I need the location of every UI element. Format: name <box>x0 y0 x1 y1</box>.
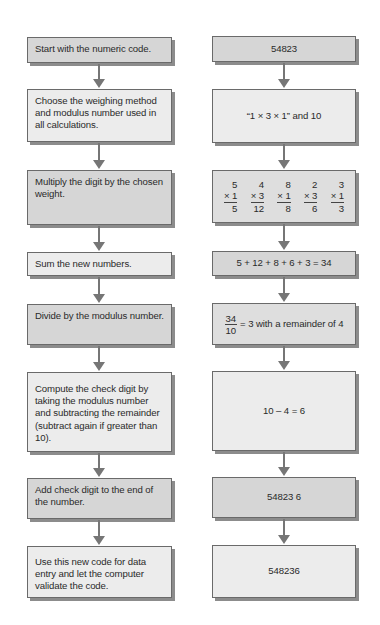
value-label: “1 × 3 × 1” and 10 <box>247 110 321 122</box>
mult-digit: 2 <box>312 179 317 190</box>
arrow-down-icon <box>278 277 290 302</box>
mult-result: 3 <box>339 203 344 214</box>
step-label: Multiply the digit by the chosen weight. <box>35 176 163 199</box>
mult-weight: × 1 <box>331 190 344 203</box>
fraction-denominator: 10 <box>226 325 236 336</box>
step-choose-method: Choose the weighing method and modulus n… <box>27 89 172 142</box>
arrow-down-icon <box>93 453 105 477</box>
value-final: 548236 <box>212 545 356 598</box>
step-sum: Sum the new numbers. <box>27 252 172 276</box>
value-method: “1 × 3 × 1” and 10 <box>212 89 356 143</box>
value-sum: 5 + 12 + 8 + 6 + 3 = 34 <box>212 251 356 276</box>
mult-digit: 5 <box>232 179 237 190</box>
step-label: Divide by the modulus number. <box>35 310 164 321</box>
mult-digit: 4 <box>259 179 264 190</box>
fraction: 34 10 <box>225 313 237 336</box>
arrow-down-icon <box>278 63 290 88</box>
mult-column: 5 × 1 5 <box>224 179 237 214</box>
value-label: 10 – 4 = 6 <box>263 405 305 417</box>
mult-result: 5 <box>232 203 237 214</box>
value-label: 54823 6 <box>267 491 301 503</box>
arrow-down-icon <box>93 143 105 169</box>
mult-weight: × 1 <box>277 190 290 203</box>
step-add-check-digit: Add check digit to the end of the number… <box>27 478 172 519</box>
mult-column: 2 × 3 6 <box>304 179 317 214</box>
mult-result: 8 <box>285 203 290 214</box>
value-appended: 54823 6 <box>212 477 356 518</box>
arrow-down-icon <box>93 277 105 303</box>
arrow-down-icon <box>93 346 105 371</box>
arrow-down-icon <box>93 64 105 88</box>
step-label: Use this new code for data entry and let… <box>35 556 146 591</box>
value-label: 54823 <box>271 43 297 55</box>
step-label: Start with the numeric code. <box>35 43 151 54</box>
mult-column: 4 × 3 12 <box>251 179 264 214</box>
division-result: = 3 with a remainder of 4 <box>240 318 343 330</box>
value-subtraction: 10 – 4 = 6 <box>212 371 356 451</box>
mult-weight: × 3 <box>304 190 317 203</box>
step-divide: Divide by the modulus number. <box>27 304 172 345</box>
value-division: 34 10 = 3 with a remainder of 4 <box>212 303 356 345</box>
value-multiplication: 5 × 1 5 4 × 3 12 8 × 1 8 2 × 3 6 3 × 1 3 <box>212 170 356 223</box>
mult-column: 8 × 1 8 <box>277 179 290 214</box>
mult-result: 6 <box>312 203 317 214</box>
arrow-down-icon <box>278 452 290 476</box>
arrow-down-icon <box>278 346 290 370</box>
mult-weight: × 1 <box>224 190 237 203</box>
mult-digit: 8 <box>285 179 290 190</box>
mult-result: 12 <box>254 203 264 214</box>
arrow-down-icon <box>278 519 290 544</box>
arrow-down-icon <box>93 520 105 545</box>
value-code: 54823 <box>212 36 356 62</box>
multiplication-table: 5 × 1 5 4 × 3 12 8 × 1 8 2 × 3 6 3 × 1 3 <box>224 179 344 214</box>
step-compute-check-digit: Compute the check digit by taking the mo… <box>27 372 172 452</box>
step-label: Choose the weighing method and modulus n… <box>35 95 157 130</box>
mult-column: 3 × 1 3 <box>331 179 344 214</box>
arrow-down-icon <box>278 224 290 250</box>
step-label: Sum the new numbers. <box>35 258 132 269</box>
step-use-new-code: Use this new code for data entry and let… <box>27 546 172 598</box>
step-label: Add check digit to the end of the number… <box>35 484 153 507</box>
value-label: 5 + 12 + 8 + 6 + 3 = 34 <box>236 257 331 269</box>
arrow-down-icon <box>278 144 290 169</box>
arrow-down-icon <box>93 226 105 251</box>
value-label: 548236 <box>268 565 299 577</box>
mult-digit: 3 <box>339 179 344 190</box>
mult-weight: × 3 <box>251 190 264 203</box>
step-start: Start with the numeric code. <box>27 37 172 63</box>
step-multiply: Multiply the digit by the chosen weight. <box>27 170 172 225</box>
fraction-numerator: 34 <box>225 313 237 325</box>
step-label: Compute the check digit by taking the mo… <box>35 383 160 443</box>
